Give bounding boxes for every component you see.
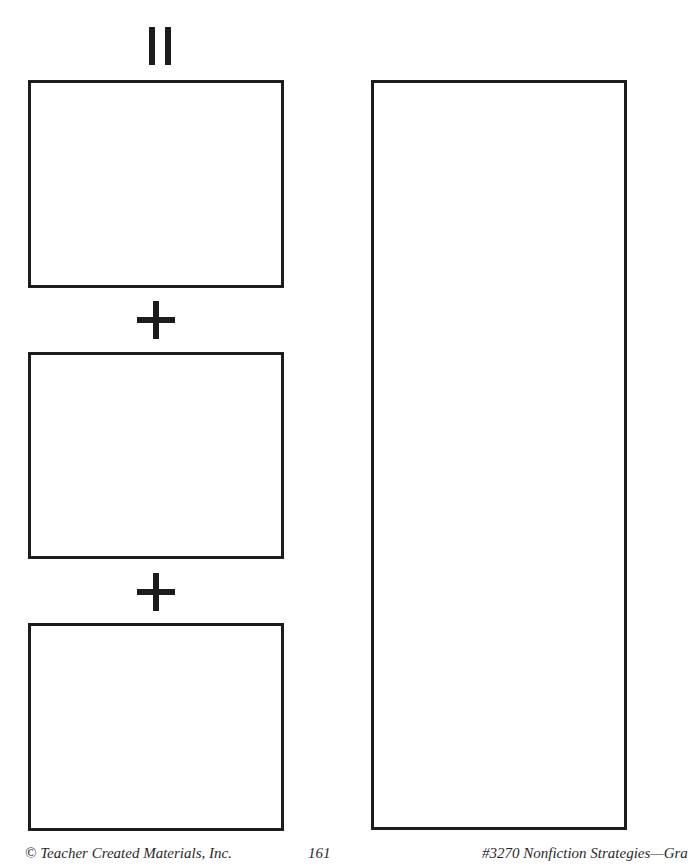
plus-sign-icon	[136, 572, 176, 612]
answer-box-bottom[interactable]	[28, 623, 284, 831]
footer-copyright: © Teacher Created Materials, Inc.	[25, 845, 232, 862]
answer-box-middle[interactable]	[28, 352, 284, 559]
answer-box-tall-right[interactable]	[371, 80, 627, 830]
footer-page-number: 161	[308, 845, 331, 862]
plus-sign-icon	[136, 300, 176, 340]
answer-box-top[interactable]	[28, 80, 284, 288]
equals-sign-icon	[147, 27, 177, 67]
footer-book-title: #3270 Nonfiction Strategies—Gra	[482, 845, 688, 862]
